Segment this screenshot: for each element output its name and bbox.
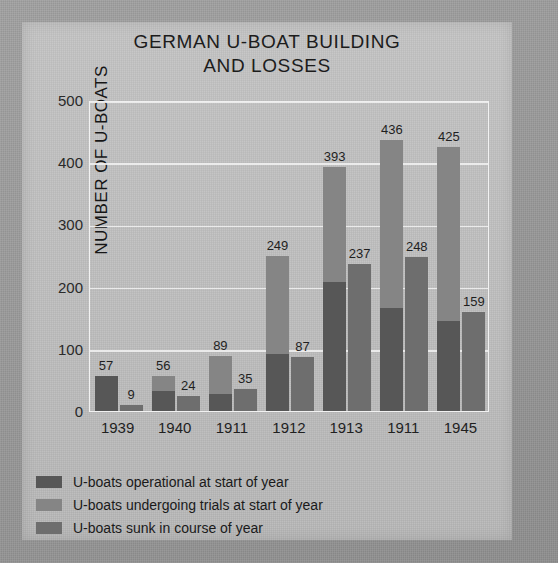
bar-group: 579: [90, 102, 147, 411]
bar-group: 8935: [204, 102, 261, 411]
y-axis-ticks: 5004003002001000: [25, 101, 83, 412]
legend-swatch: [36, 522, 62, 534]
bar-sunk: [291, 357, 314, 411]
bar-segment-operational: [152, 391, 175, 411]
bar-value-label-sunk: 24: [171, 378, 206, 393]
legend-label: U-boats operational at start of year: [73, 475, 289, 489]
legend-item[interactable]: U-boats operational at start of year: [36, 472, 456, 492]
bar-value-label-sunk: 9: [114, 387, 149, 402]
bar-value-label-total: 436: [374, 122, 409, 137]
bar-value-label-total: 56: [146, 358, 181, 373]
y-tick-label: 100: [27, 341, 83, 358]
y-tick-label: 500: [27, 92, 83, 109]
x-tick-label: 1912: [260, 419, 317, 436]
bar-sunk: [348, 264, 371, 411]
bar-group: 425159: [433, 102, 490, 411]
bar-value-label-total: 57: [89, 358, 124, 373]
y-tick-label: 300: [27, 216, 83, 233]
bar-segment-operational: [266, 354, 289, 411]
bar-value-label-total: 393: [317, 149, 352, 164]
plot-area: 5795624893524987393237436248425159: [89, 101, 489, 412]
bar-value-label-total: 89: [203, 338, 238, 353]
x-tick-label: 1940: [146, 419, 203, 436]
legend-item[interactable]: U-boats sunk in course of year: [36, 518, 456, 538]
stacked-bar-building: [323, 167, 346, 411]
bar-sunk: [120, 405, 143, 411]
stacked-bar-building: [437, 147, 460, 411]
bar-segment-trials: [380, 140, 403, 309]
stacked-bar-building: [380, 140, 403, 411]
bar-segment-operational: [209, 394, 232, 411]
bar-sunk: [177, 396, 200, 411]
bar-segment-operational: [380, 308, 403, 411]
x-tick-label: 1911: [375, 419, 432, 436]
bar-value-label-sunk: 87: [285, 339, 320, 354]
bar-group: 393237: [319, 102, 376, 411]
legend-label: U-boats sunk in course of year: [73, 521, 263, 535]
legend-swatch: [36, 499, 62, 511]
legend-label: U-boats undergoing trials at start of ye…: [73, 498, 323, 512]
legend-item[interactable]: U-boats undergoing trials at start of ye…: [36, 495, 456, 515]
bar-segment-trials: [323, 167, 346, 283]
legend-swatch: [36, 476, 62, 488]
bar-segment-operational: [323, 282, 346, 411]
x-tick-label: 1945: [432, 419, 489, 436]
bar-group: 436248: [376, 102, 433, 411]
x-tick-label: 1911: [203, 419, 260, 436]
bar-sunk: [405, 257, 428, 411]
bar-value-label-sunk: 35: [228, 371, 263, 386]
bar-sunk: [462, 312, 485, 411]
bar-value-label-sunk: 248: [399, 239, 434, 254]
bar-value-label-total: 249: [260, 238, 295, 253]
y-tick-label: 0: [27, 403, 83, 420]
legend: U-boats operational at start of yearU-bo…: [36, 472, 456, 541]
bar-sunk: [234, 389, 257, 411]
x-tick-label: 1913: [318, 419, 375, 436]
bar-series-container: 5795624893524987393237436248425159: [90, 102, 488, 411]
bar-value-label-total: 425: [431, 129, 466, 144]
bar-value-label-sunk: 237: [342, 246, 377, 261]
y-tick-label: 200: [27, 279, 83, 296]
bar-group: 24987: [261, 102, 318, 411]
x-tick-label: 1939: [89, 419, 146, 436]
stacked-bar-building: [266, 256, 289, 411]
bar-group: 5624: [147, 102, 204, 411]
bar-segment-operational: [437, 321, 460, 411]
y-tick-label: 400: [27, 154, 83, 171]
bar-value-label-sunk: 159: [456, 294, 491, 309]
